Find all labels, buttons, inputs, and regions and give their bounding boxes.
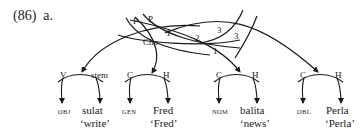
label-1b: 1 [213,46,218,56]
node-fred-word: Fred [153,104,174,116]
node-perla-gloss: ‘Perla’ [325,117,355,129]
node-balita: C H NOM balita ‘news’ [212,70,270,129]
node-verb-word: sulat [82,104,103,116]
node-perla-case: OBL [297,108,311,115]
node-balita-word: balita [240,104,265,116]
node-fred-gloss: ‘Fred’ [150,117,178,129]
node-fred-case: GEN [122,108,136,115]
arc-pair-diagram: P P Cho 1 2 3 3 1 V stem OBJ sulat ‘writ… [0,0,361,134]
label-p2: P [148,14,153,24]
node-balita-case: NOM [212,108,228,115]
label-p1: P [133,16,138,26]
node-verb-gloss: ‘write’ [80,117,110,129]
node-perla-word: Perla [326,104,349,116]
node-verb-case: OBJ [58,108,71,115]
label-3a: 3 [217,25,222,35]
node-balita-gloss: ‘news’ [240,117,270,129]
node-verb-right: stem [91,70,108,80]
label-cho: Cho [143,37,159,47]
node-perla: C H OBL Perla ‘Perla’ [297,70,355,129]
node-fred: C H GEN Fred ‘Fred’ [122,70,178,129]
label-3b: 3 [234,31,239,41]
arc-p-to-verb [82,25,200,72]
label-2: 2 [195,33,200,43]
node-verb: V stem OBJ sulat ‘write’ [58,70,110,129]
label-1a: 1 [166,28,171,38]
